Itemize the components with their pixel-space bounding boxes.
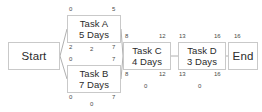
annotation-taskB-late-start: 0 [69,94,72,101]
annotation-taskA-float: 2 [90,46,93,53]
annotation-taskA-late-start: 2 [69,44,72,51]
network-diagram-canvas: StartTask A5 DaysTask B7 DaysTask C4 Day… [0,0,262,112]
node-taskC[interactable]: Task C4 Days [123,42,171,70]
node-end[interactable]: End [228,42,258,70]
node-taskD-duration: 3 Days [187,56,217,67]
annotation-taskC-late-finish: 12 [159,71,166,78]
node-taskC-duration: 4 Days [132,56,162,67]
annotation-taskD-late-finish: 16 [214,71,221,78]
node-start-label: Start [22,50,47,63]
annotation-taskD-late-start: 13 [179,71,186,78]
annotation-taskA-early-finish: 5 [112,6,115,13]
annotation-taskC-late-start: 8 [125,71,128,78]
node-taskB[interactable]: Task B7 Days [67,65,121,93]
annotation-taskA-early-start: 0 [69,6,72,13]
annotation-taskC-float: 0 [144,83,147,90]
node-taskC-label: Task C [132,45,162,56]
node-taskB-label: Task B [79,68,108,79]
edge-start-to-taskB [60,56,67,79]
node-taskA[interactable]: Task A5 Days [67,15,121,43]
annotation-taskB-late-finish: 7 [112,94,115,101]
edge-start-to-taskA [60,29,67,56]
annotation-end-early-finish: 16 [234,33,241,40]
annotation-taskB-early-finish: 7 [112,56,115,63]
node-start[interactable]: Start [8,42,60,70]
annotation-taskA-late-finish: 7 [112,44,115,51]
annotation-taskB-float: 0 [90,101,93,108]
annotation-taskD-early-finish: 16 [214,33,221,40]
node-taskD[interactable]: Task D3 Days [178,42,226,70]
node-taskA-label: Task A [80,18,109,29]
node-taskA-duration: 5 Days [79,29,109,40]
annotation-taskB-early-start: 0 [69,56,72,63]
node-taskB-duration: 7 Days [79,79,109,90]
annotation-taskC-early-start: 8 [125,33,128,40]
annotation-taskD-early-start: 13 [179,33,186,40]
node-taskD-label: Task D [187,45,217,56]
node-end-label: End [233,50,254,63]
annotation-taskC-early-finish: 12 [159,33,166,40]
annotation-taskD-float: 0 [198,83,201,90]
